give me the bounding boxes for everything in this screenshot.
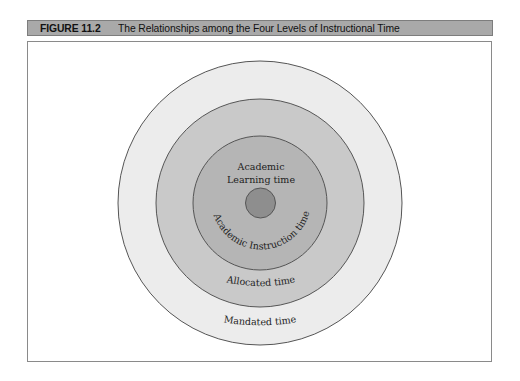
circle-learning: [246, 188, 276, 218]
label-learning-line1: Academic: [237, 161, 285, 172]
concentric-diagram: Academic Learning time Academic Instruct…: [0, 0, 520, 381]
label-learning-line2: Learning time: [227, 174, 295, 185]
